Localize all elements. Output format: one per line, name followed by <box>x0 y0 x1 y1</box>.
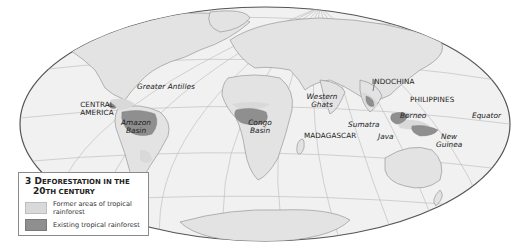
label-new-guinea-line2: Guinea <box>436 140 462 149</box>
legend-item-former: Former areas of tropical rainforest <box>25 200 142 216</box>
label-greater-antilles: Greater Antilles <box>137 83 195 91</box>
legend-title-line1-rest: EFORESTATION IN THE <box>42 178 130 186</box>
legend-title-line1-initial: D <box>34 176 41 186</box>
label-equator: Equator <box>472 112 501 120</box>
label-philippines: PHILIPPINES <box>410 96 454 104</box>
label-borneo: Borneo <box>400 112 426 120</box>
legend-swatch-existing <box>25 219 47 231</box>
legend-title: 3 DEFORESTATION IN THE 20TH CENTURY <box>25 177 142 197</box>
label-congo-basin: Congo Basin <box>246 119 274 135</box>
label-madagascar: MADAGASCAR <box>304 132 356 140</box>
legend-item-existing: Existing tropical rainforest <box>25 219 142 231</box>
label-western-ghats-line2: Ghats <box>311 100 333 109</box>
label-congo-line2: Basin <box>250 126 270 135</box>
legend-title-line2-initial: 20 <box>33 186 46 196</box>
legend-title-line2-rest: TH CENTURY <box>46 188 95 196</box>
label-amazon-basin: Amazon Basin <box>121 119 151 135</box>
label-amazon-line2: Basin <box>126 126 146 135</box>
label-central-america-line2: AMERICA <box>80 108 113 117</box>
label-new-guinea: New Guinea <box>436 133 462 149</box>
legend-number: 3 <box>25 176 31 186</box>
label-indochina: INDOCHINA <box>372 78 414 86</box>
legend-swatch-former <box>25 202 47 214</box>
map-legend: 3 DEFORESTATION IN THE 20TH CENTURY Form… <box>18 172 149 236</box>
label-java: Java <box>378 133 394 141</box>
label-sumatra: Sumatra <box>348 121 380 129</box>
legend-label-existing: Existing tropical rainforest <box>53 221 140 229</box>
legend-label-former: Former areas of tropical rainforest <box>53 200 142 216</box>
label-central-america: CENTRAL AMERICA <box>78 101 116 116</box>
label-western-ghats: Western Ghats <box>306 93 338 109</box>
legend-title-line2: 20TH CENTURY <box>25 187 142 197</box>
